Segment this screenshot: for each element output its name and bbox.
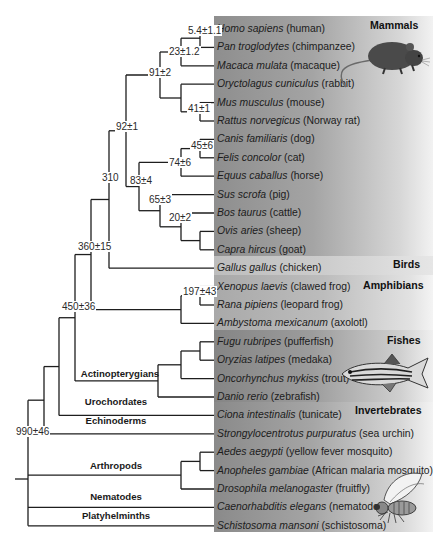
mouse-illustration-icon: [340, 32, 433, 92]
clade-label-urochordates: Urochordates: [85, 396, 147, 407]
clade-label-echinoderms: Echinoderms: [86, 415, 147, 426]
species-row: Ovis aries (sheep): [217, 225, 301, 237]
species-row: Rattus norvegicus (Norway rat): [217, 115, 360, 127]
clade-label-platyhelminths: Platyhelminths: [82, 510, 150, 521]
species-row: Fugu rubripes (pufferfish): [217, 336, 334, 348]
species-latin-name: Rattus norvegicus: [217, 115, 300, 126]
species-row: Ambystoma mexicanum (axolotl): [217, 317, 368, 329]
species-row: Felis concolor (cat): [217, 152, 305, 164]
species-latin-name: Macaca mulata: [217, 60, 287, 71]
species-common-name: (tunicate): [298, 409, 341, 420]
species-row: Strongylocentrotus purpuratus (sea urchi…: [217, 428, 414, 440]
node-label-mouse-rat: 41±1: [187, 103, 211, 114]
node-label-hominid-macaque: 23±1.2: [168, 46, 201, 57]
node-label-tetrapods-fishes: 450±36: [61, 301, 96, 312]
species-common-name: (yellow fever mosquito): [286, 446, 393, 457]
species-common-name: (cattle): [270, 207, 302, 218]
species-row: Oncorhynchus mykiss (trout): [217, 373, 349, 385]
species-row: Danio rerio (zebrafish): [217, 391, 320, 403]
species-row: Xenopus laevis (clawed frog): [217, 281, 350, 293]
species-common-name: (horse): [290, 170, 323, 181]
species-common-name: (cat): [284, 152, 305, 163]
species-common-name: (human): [286, 23, 325, 34]
node-label-human-chimp: 5.4±1.1: [187, 25, 222, 36]
species-latin-name: Mus musculus: [217, 97, 283, 108]
clade-label-arthropods: Arthropods: [90, 460, 142, 471]
species-row: Rana pipiens (leopard frog): [217, 299, 343, 311]
species-row: Aedes aegypti (yellow fever mosquito): [217, 446, 393, 458]
species-common-name: (sea urchin): [359, 428, 414, 439]
species-latin-name: Pan troglodytes: [217, 41, 289, 52]
species-latin-name: Ovis aries: [217, 225, 263, 236]
species-latin-name: Aedes aegypti: [217, 446, 283, 457]
node-label-mammals-birds: 310: [101, 172, 120, 183]
node-label-bilateria: 990±46: [15, 426, 50, 437]
node-label-pig-ruminants: 65±3: [148, 194, 172, 205]
species-common-name: (chicken): [279, 262, 321, 273]
species-common-name: (medaka): [288, 354, 332, 365]
species-row: Oryctolagus cuniculus (rabbit): [217, 78, 354, 90]
species-latin-name: Ambystoma mexicanum: [217, 317, 328, 328]
species-latin-name: Caenorhabditis elegans: [217, 501, 326, 512]
species-latin-name: Strongylocentrotus purpuratus: [217, 428, 356, 439]
phylogenetic-tree-figure: Homo sapiens (human)Pan troglodytes (chi…: [0, 0, 433, 546]
clade-label-nematodes: Nematodes: [90, 491, 142, 502]
species-common-name: (pig): [269, 189, 290, 200]
species-latin-name: Oryzias latipes: [217, 354, 285, 365]
species-common-name: (goat): [279, 244, 306, 255]
node-label-amniotes-amphibians: 360±15: [77, 241, 112, 252]
species-common-name: (macaque): [290, 60, 340, 71]
species-row: Equus caballus (horse): [217, 170, 323, 182]
species-common-name: (zebrafish): [271, 391, 320, 402]
species-row: Caenorhabditis elegans (nematode): [217, 501, 382, 513]
node-label-cattle-sheep-goat: 20±2: [168, 212, 192, 223]
node-label-carnivores-horse: 74±6: [168, 157, 192, 168]
species-latin-name: Rana pipiens: [217, 299, 278, 310]
species-row: Capra hircus (goat): [217, 244, 306, 256]
species-latin-name: Drosophila melanogaster: [217, 483, 333, 494]
species-latin-name: Felis concolor: [217, 152, 281, 163]
species-row: Gallus gallus (chicken): [217, 262, 322, 274]
species-latin-name: Homo sapiens: [217, 23, 283, 34]
species-latin-name: Anopheles gambiae: [217, 465, 309, 476]
species-latin-name: Sus scrofa: [217, 189, 266, 200]
species-row: Canis familiaris (dog): [217, 133, 315, 145]
species-latin-name: Oncorhynchus mykiss: [217, 373, 319, 384]
species-row: Macaca mulata (macaque): [217, 60, 340, 72]
species-row: Pan troglodytes (chimpanzee): [217, 41, 355, 53]
species-common-name: (sheep): [266, 225, 301, 236]
species-latin-name: Schistosoma mansoni: [217, 520, 319, 531]
species-latin-name: Fugu rubripes: [217, 336, 281, 347]
node-label-xenopus-rana: 197±43: [182, 286, 217, 297]
species-common-name: (axolotl): [331, 317, 368, 328]
zebrafish-illustration-icon: [336, 348, 433, 400]
species-row: Schistosoma mansoni (schistosoma): [217, 520, 386, 532]
species-common-name: (clawed frog): [290, 281, 350, 292]
node-label-laurasiatheria: 83±4: [129, 175, 153, 186]
species-row: Ciona intestinalis (tunicate): [217, 409, 342, 421]
node-label-primates-rodents: 91±2: [148, 67, 172, 78]
group-label-amphibians: Amphibians: [363, 279, 424, 291]
species-latin-name: Gallus gallus: [217, 262, 277, 273]
node-label-dog-cat: 45±6: [190, 140, 214, 151]
species-common-name: (mouse): [286, 97, 324, 108]
species-latin-name: Canis familiaris: [217, 133, 287, 144]
group-label-fishes: Fishes: [387, 334, 421, 346]
species-row: Homo sapiens (human): [217, 23, 325, 35]
group-label-invertebrates: Invertebrates: [355, 404, 422, 416]
species-common-name: (dog): [290, 133, 314, 144]
node-label-euarchontoglires: 92±1: [115, 121, 139, 132]
group-label-birds: Birds: [393, 258, 420, 270]
clade-label-actinopterygians: Actinopterygians: [81, 368, 159, 379]
fruitfly-illustration-icon: [362, 470, 428, 528]
species-row: Sus scrofa (pig): [217, 189, 290, 201]
species-row: Drosophila melanogaster (fruitfly): [217, 483, 370, 495]
species-row: Mus musculus (mouse): [217, 97, 324, 109]
species-latin-name: Ciona intestinalis: [217, 409, 296, 420]
species-latin-name: Oryctolagus cuniculus: [217, 78, 319, 89]
species-latin-name: Danio rerio: [217, 391, 268, 402]
species-latin-name: Capra hircus: [217, 244, 276, 255]
species-row: Bos taurus (cattle): [217, 207, 301, 219]
group-label-mammals: Mammals: [370, 19, 418, 31]
species-common-name: (leopard frog): [281, 299, 343, 310]
